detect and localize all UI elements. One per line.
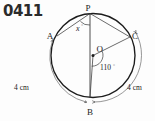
centre-label-O: O (97, 44, 104, 54)
arc-length-label-left: 4 cm (14, 83, 29, 92)
circle-geometry-diagram: P A C B O x ° 110 ° 4 cm 4 cm (0, 0, 155, 121)
angle-label-x-group: x ° (75, 23, 83, 33)
angle-label-110: 110 (100, 63, 111, 72)
arc-measure-left (50, 41, 86, 103)
centre-point-dot (92, 54, 95, 57)
point-label-P: P (85, 3, 90, 13)
point-label-B: B (87, 107, 93, 117)
arc-length-label-right: 4 cm (127, 83, 142, 92)
angle-label-110-group: 110 ° (100, 63, 115, 73)
angle-label-x-degree-symbol: ° (81, 23, 83, 28)
point-label-C: C (132, 31, 138, 41)
angle-label-110-degree-symbol: ° (113, 63, 115, 68)
angle-label-x: x (75, 24, 80, 33)
figure-container: 0411 P A C (0, 0, 155, 121)
point-label-A: A (47, 31, 54, 41)
